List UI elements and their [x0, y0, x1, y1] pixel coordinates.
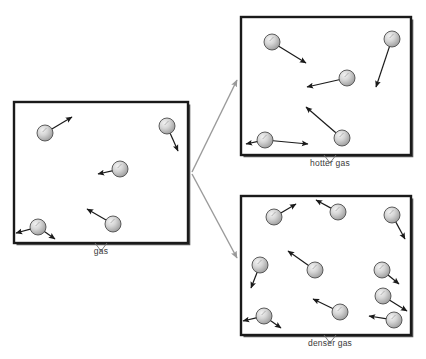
gas-particle-denser-gas-7	[256, 308, 272, 324]
gas-particle-gas-1	[159, 118, 175, 134]
connector-to-denser	[192, 174, 237, 258]
gas-particle-denser-gas-8	[332, 304, 348, 320]
gas-particle-hotter-gas-4	[334, 130, 350, 146]
gas-particle-denser-gas-4	[307, 262, 323, 278]
gas-particle-hotter-gas-1	[384, 31, 400, 47]
panel-label-gas: gas	[41, 246, 161, 256]
diagram-scene	[0, 0, 426, 359]
gas-particle-gas-0	[37, 125, 53, 141]
gas-particle-gas-3	[30, 219, 46, 235]
diagram-canvas: gas hotter gas denser gas	[0, 0, 426, 359]
gas-particle-hotter-gas-2	[339, 70, 355, 86]
gas-particle-denser-gas-9	[386, 312, 402, 328]
connector-arrows	[192, 80, 237, 258]
gas-particle-hotter-gas-3	[257, 132, 273, 148]
gas-particle-denser-gas-3	[252, 257, 268, 273]
panel-boxes	[14, 17, 413, 337]
gas-particle-denser-gas-6	[375, 288, 391, 304]
gas-particle-hotter-gas-0	[264, 34, 280, 50]
gas-particle-gas-2	[112, 161, 128, 177]
gas-particle-denser-gas-1	[330, 204, 346, 220]
gas-particle-denser-gas-2	[384, 207, 400, 223]
connector-to-hotter	[192, 80, 237, 172]
gas-particle-denser-gas-5	[374, 262, 390, 278]
gas-particle-denser-gas-0	[266, 209, 282, 225]
panel-label-denser-gas: denser gas	[270, 338, 390, 348]
gas-particle-gas-4	[105, 216, 121, 232]
panel-label-hotter-gas: hotter gas	[270, 158, 390, 168]
